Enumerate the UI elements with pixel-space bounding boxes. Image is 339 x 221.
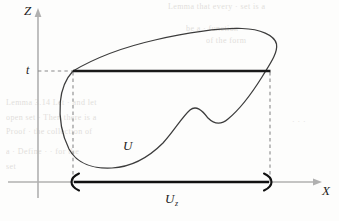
dashed-guides-group: [38, 71, 270, 185]
projection-label-base: U: [165, 191, 174, 206]
projection-label-uz: Uz: [165, 192, 178, 205]
region-boundary-curve: [60, 28, 277, 168]
x-axis-label: X: [322, 184, 330, 197]
t-tick-label: t: [26, 64, 29, 76]
axes-group: [8, 8, 322, 198]
region-label-u: U: [123, 139, 132, 152]
z-axis-arrowhead: [35, 8, 42, 17]
diagram-canvas: [0, 0, 339, 221]
projection-bracket-group: [72, 174, 272, 191]
z-axis-label: Z: [24, 4, 31, 17]
projection-label-subscript: z: [175, 199, 178, 208]
figure-container: Lemma that every · set is a be a · funct…: [0, 0, 339, 221]
x-axis-arrowhead: [313, 179, 322, 186]
